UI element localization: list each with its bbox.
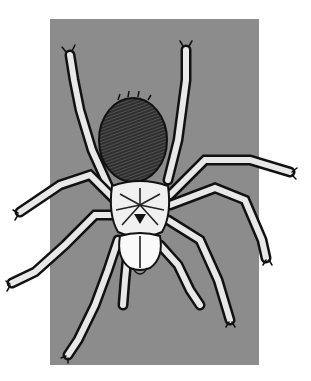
abdomen [99,91,167,182]
leg-front-left [62,45,110,190]
leg-front-right [168,41,192,180]
illustration: Pen-and-ink style drawing of a hairy tar… [0,0,311,381]
leg-right-inner [160,245,200,305]
cephalothorax [111,181,169,237]
spider-drawing [0,0,311,381]
leg-left-4 [61,240,118,363]
